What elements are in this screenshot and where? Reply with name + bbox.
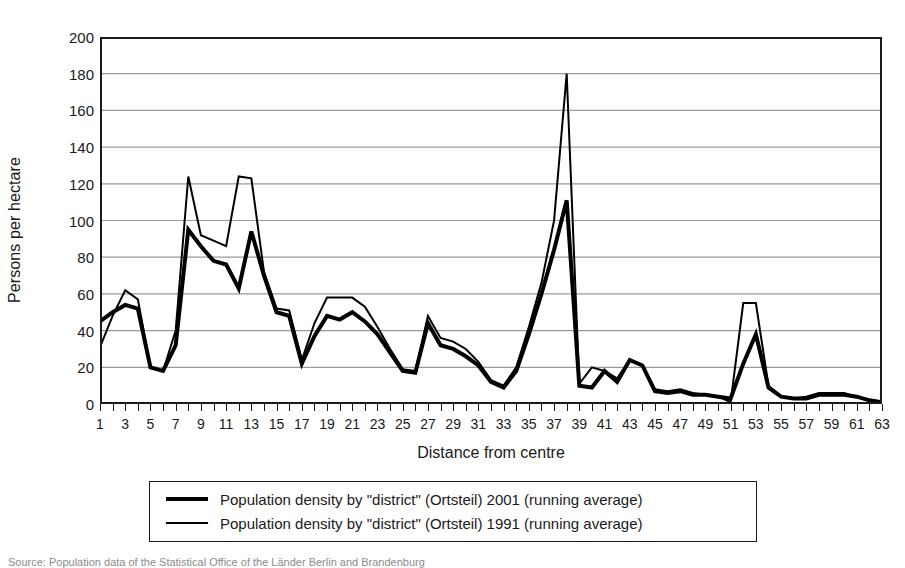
x-tick-mark [176,404,177,411]
x-tick-mark [819,404,820,411]
y-tick-label: 20 [36,360,94,375]
x-tick-mark [163,404,164,411]
y-tick-label: 40 [36,323,94,338]
legend-label-1991: Population density by "district" (Ortste… [220,515,643,532]
x-tick-mark [541,404,542,411]
chart-legend: Population density by "district" (Ortste… [149,481,757,542]
x-tick-mark [680,404,681,411]
x-tick-mark [466,404,467,411]
y-tick-label: 0 [36,397,94,412]
y-tick-label: 180 [36,66,94,81]
x-tick-mark [150,404,151,411]
x-tick-mark [882,404,883,411]
x-tick-mark [327,404,328,411]
x-tick-mark [188,404,189,411]
x-tick-mark [768,404,769,411]
x-tick-mark [340,404,341,411]
y-tick-label: 120 [36,176,94,191]
x-tick-mark [567,404,568,411]
x-tick-mark [289,404,290,411]
x-tick-mark [516,404,517,411]
x-tick-mark [491,404,492,411]
x-tick-mark [832,404,833,411]
x-tick-mark [125,404,126,411]
x-tick-mark [668,404,669,411]
x-tick-mark [592,404,593,411]
x-tick-mark [743,404,744,411]
x-tick-mark [579,404,580,411]
y-axis-tick-labels: 020406080100120140160180200 [36,30,94,410]
x-tick-mark [352,404,353,411]
x-tick-mark [844,404,845,411]
y-tick-label: 160 [36,103,94,118]
source-caption: Source: Population data of the Statistic… [8,556,898,568]
x-tick-mark [377,404,378,411]
x-tick-mark [428,404,429,411]
y-tick-label: 80 [36,250,94,265]
x-tick-mark [794,404,795,411]
x-tick-mark [718,404,719,411]
legend-label-2001: Population density by "district" (Ortste… [220,491,643,508]
x-tick-mark [478,404,479,411]
x-tick-mark [781,404,782,411]
x-tick-mark [264,404,265,411]
x-tick-mark [705,404,706,411]
plot-frame [100,37,882,404]
x-tick-mark [365,404,366,411]
legend-line-swatch-1991 [164,516,210,530]
x-tick-mark [415,404,416,411]
x-tick-mark [605,404,606,411]
x-tick-mark [251,404,252,411]
x-tick-mark [214,404,215,411]
y-tick-label: 140 [36,140,94,155]
y-axis-title: Persons per hectare [6,130,24,330]
x-tick-mark [390,404,391,411]
x-tick-mark [226,404,227,411]
x-tick-mark [302,404,303,411]
x-tick-mark [857,404,858,411]
x-tick-mark [239,404,240,411]
x-tick-mark [138,404,139,411]
x-tick-mark [693,404,694,411]
x-tick-mark [554,404,555,411]
y-tick-label: 60 [36,286,94,301]
x-tick-mark [529,404,530,411]
x-tick-mark [806,404,807,411]
x-tick-mark [453,404,454,411]
x-tick-mark [403,404,404,411]
chart-figure: Persons per hectare 02040608010012014016… [0,0,905,568]
x-tick-mark [201,404,202,411]
x-tick-mark [642,404,643,411]
y-tick-label: 100 [36,213,94,228]
legend-line-swatch-2001 [164,492,210,506]
legend-item-1991: Population density by "district" (Ortste… [150,511,756,535]
legend-item-2001: Population density by "district" (Ortste… [150,487,756,511]
x-tick-label: 63 [867,416,897,432]
x-tick-mark [314,404,315,411]
x-tick-mark [277,404,278,411]
x-tick-mark [756,404,757,411]
plot-area [100,37,882,404]
y-tick-label: 200 [36,30,94,45]
x-tick-mark [655,404,656,411]
x-tick-mark [113,404,114,411]
x-tick-mark [617,404,618,411]
x-axis-tick-labels: 1357911131517192123252729313335373941434… [100,404,882,444]
x-tick-mark [869,404,870,411]
x-tick-mark [630,404,631,411]
x-axis-title: Distance from centre [100,444,882,462]
x-tick-mark [504,404,505,411]
x-tick-mark [100,404,101,411]
x-tick-mark [441,404,442,411]
x-tick-mark [731,404,732,411]
